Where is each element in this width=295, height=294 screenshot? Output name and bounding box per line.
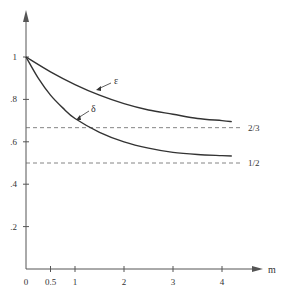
x-axis-arrow-icon	[252, 266, 263, 272]
series	[26, 57, 232, 156]
reference-line-label: 2/3	[248, 123, 260, 133]
y-tick-label: .2	[10, 222, 17, 232]
x-tick-label: 4	[220, 277, 225, 287]
x-tick-label: 0.5	[45, 277, 57, 287]
series-line	[26, 57, 232, 156]
annotations: εδ	[76, 75, 118, 120]
reference-line-label: 1/2	[248, 158, 260, 168]
delta-label: δ	[91, 103, 96, 114]
chart: m00.51234.2.4.6.81 2/31/2 εδ	[0, 0, 295, 294]
epsilon-label: ε	[114, 75, 118, 86]
x-tick-label: 2	[122, 277, 127, 287]
x-tick-label: 3	[171, 277, 176, 287]
x-tick-label: 1	[73, 277, 78, 287]
epsilon-arrow-icon	[96, 86, 101, 91]
x-axis-label: m	[268, 264, 276, 275]
y-tick-label: 1	[13, 52, 18, 62]
y-tick-label: .8	[10, 94, 17, 104]
series-line	[26, 57, 232, 122]
chart-svg: m00.51234.2.4.6.81 2/31/2 εδ	[0, 0, 295, 294]
x-tick-label: 0	[24, 277, 29, 287]
y-tick-label: .6	[10, 137, 17, 147]
delta-arrow-icon	[76, 115, 81, 120]
y-axis-arrow-icon	[23, 10, 29, 22]
reference-lines: 2/31/2	[26, 123, 260, 168]
axes: m00.51234.2.4.6.81	[10, 10, 276, 287]
y-tick-label: .4	[10, 179, 17, 189]
